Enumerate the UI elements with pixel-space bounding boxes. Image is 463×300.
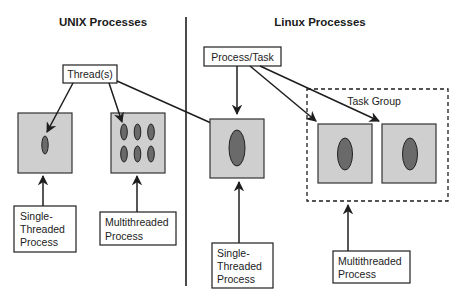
thread-ellipse xyxy=(134,124,141,140)
task-group-member-2 xyxy=(382,124,436,183)
arrow-task-to-group-member-2 xyxy=(260,66,379,121)
unix-single-threaded-label-node: Single- Threaded Process xyxy=(14,206,76,252)
unix-single-threaded-process xyxy=(18,113,72,173)
thread-ellipse xyxy=(148,124,155,140)
process-box xyxy=(111,113,165,173)
thread-ellipse xyxy=(338,138,353,170)
unix-threads-node: Thread(s) xyxy=(63,65,117,83)
unix-threads-label: Thread(s) xyxy=(67,68,113,80)
task-group-label: Task Group xyxy=(347,95,401,107)
thread-ellipse xyxy=(229,130,245,166)
unix-multithreaded-process xyxy=(111,113,165,173)
unix-multithreaded-label-node: Multithreaded Process xyxy=(100,212,176,245)
thread-ellipse xyxy=(148,146,155,162)
thread-ellipse xyxy=(403,138,418,170)
thread-ellipse xyxy=(134,146,141,162)
thread-ellipse xyxy=(121,146,128,162)
linux-multithreaded-label-node: Multithreaded Process xyxy=(333,251,410,283)
arrow-task-to-group-member-1 xyxy=(250,66,316,121)
process-task-label: Process/Task xyxy=(211,51,274,63)
task-group: Task Group xyxy=(307,89,448,201)
linux-section-title: Linux Processes xyxy=(274,16,365,28)
process-model-diagram: UNIX Processes Linux Processes Thread(s)… xyxy=(0,0,463,300)
thread-ellipse xyxy=(121,124,128,140)
linux-single-threaded-process xyxy=(210,119,264,178)
unix-section-title: UNIX Processes xyxy=(59,16,147,28)
task-group-member-1 xyxy=(318,124,372,183)
linux-single-threaded-label-node: Single- Threaded Process xyxy=(212,243,273,288)
thread-ellipse xyxy=(42,136,48,154)
linux-process-task-node: Process/Task xyxy=(204,47,281,66)
